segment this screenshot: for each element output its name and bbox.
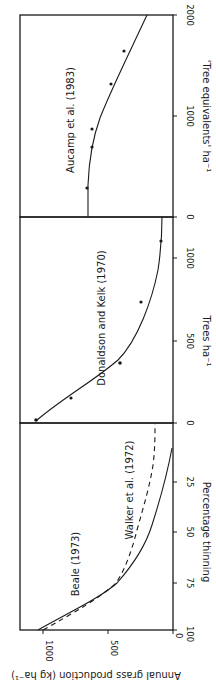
svg-text:1000: 1000	[185, 105, 195, 127]
svg-text:50: 50	[185, 527, 195, 538]
beale-curve	[38, 448, 172, 630]
y-axis-label: Annual grass production (kg ha⁻¹)	[11, 670, 181, 681]
walker-curve	[43, 424, 155, 630]
x-axis-label-aucamp: 'Tree equivalents' ha⁻¹	[201, 60, 212, 173]
data-points	[85, 49, 125, 189]
annotation-donaldson: Donaldson and Kelk (1970)	[96, 250, 107, 386]
x-axis-label-donaldson: Trees ha⁻¹	[201, 315, 212, 367]
x-tick-labels: 2000 1000 0 1000 500 0 0 25 50 75 100	[185, 4, 195, 642]
svg-text:1000: 1000	[44, 640, 54, 662]
svg-text:0: 0	[185, 214, 195, 219]
annotation-aucamp: Aucamp et al. (1983)	[65, 67, 76, 173]
panel-thinning	[20, 423, 173, 630]
panel-aucamp	[20, 15, 173, 217]
svg-text:75: 75	[185, 578, 195, 589]
svg-text:500: 500	[109, 640, 119, 656]
fitted-curve	[88, 15, 147, 217]
svg-text:500: 500	[185, 333, 195, 349]
chart-figure: 2000 1000 0 1000 500 0 0 25 50 75 100 10…	[0, 0, 216, 682]
annotation-walker: Walker et al. (1972)	[124, 441, 135, 540]
svg-text:0: 0	[174, 633, 184, 638]
svg-text:1000: 1000	[185, 247, 195, 269]
svg-text:2000: 2000	[185, 4, 195, 26]
y-tick-labels: 1000 500 0	[44, 633, 184, 662]
annotation-beale: Beale (1973)	[70, 532, 81, 597]
x-axis-label-thinning: Percentage thinning	[201, 482, 212, 583]
svg-text:25: 25	[185, 477, 195, 488]
svg-text:100: 100	[185, 626, 195, 642]
panel-frame	[20, 423, 173, 630]
panel-frame	[20, 15, 173, 217]
